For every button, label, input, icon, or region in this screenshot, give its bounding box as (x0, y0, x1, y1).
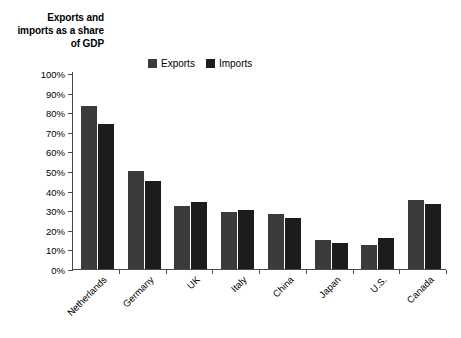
bar-exports-us (361, 245, 377, 270)
bar-exports-uk (174, 206, 190, 269)
bar-imports-japan (332, 243, 348, 269)
y-axis-tick (68, 270, 72, 271)
y-axis-line (72, 72, 73, 271)
bar-imports-us (378, 238, 394, 269)
bar-group (361, 73, 394, 269)
x-axis-label: China (270, 274, 295, 299)
x-axis-tick (166, 270, 167, 274)
bar-imports-china (285, 218, 301, 269)
y-axis-label: 20% (46, 225, 65, 236)
x-axis-label: U.S. (368, 274, 389, 295)
bar-exports-china (268, 214, 284, 269)
legend-item-imports: Imports (206, 58, 252, 69)
bar-group (268, 73, 301, 269)
bar-imports-canada (425, 204, 441, 269)
bar-group (174, 73, 207, 269)
y-axis-tick (68, 172, 72, 173)
x-axis-tick (446, 270, 447, 274)
x-axis-tick (306, 270, 307, 274)
bar-exports-japan (315, 240, 331, 269)
legend-swatch-exports (148, 59, 157, 68)
bar-exports-italy (221, 212, 237, 269)
y-axis-label: 10% (46, 245, 65, 256)
x-axis-tick (353, 270, 354, 274)
y-axis-label: 100% (41, 69, 65, 80)
legend-item-exports: Exports (148, 58, 195, 69)
x-axis-label: Germany (120, 274, 155, 309)
y-axis-label: 50% (46, 167, 65, 178)
x-axis-label: Japan (316, 274, 342, 300)
y-axis-tick (68, 133, 72, 134)
y-axis-label: 60% (46, 147, 65, 158)
y-axis-tick (68, 192, 72, 193)
y-axis-label: 80% (46, 108, 65, 119)
bar-imports-netherlands (98, 124, 114, 269)
y-axis-tick (68, 250, 72, 251)
y-axis-tick (68, 152, 72, 153)
chart-legend: Exports Imports (148, 58, 252, 69)
bar-group (221, 73, 254, 269)
bar-group (128, 73, 161, 269)
bar-group (81, 73, 114, 269)
y-axis-tick (68, 113, 72, 114)
x-axis-label: UK (185, 274, 202, 291)
bar-imports-uk (191, 202, 207, 269)
y-axis-label: 90% (46, 88, 65, 99)
y-axis-label: 30% (46, 206, 65, 217)
bar-exports-germany (128, 171, 144, 269)
x-axis-tick (119, 270, 120, 274)
bar-exports-netherlands (81, 106, 97, 269)
bar-group (315, 73, 348, 269)
legend-label-imports: Imports (219, 58, 252, 69)
legend-label-exports: Exports (161, 58, 195, 69)
y-axis-tick (68, 231, 72, 232)
x-axis-tick (259, 270, 260, 274)
chart-title: Exports and imports as a share of GDP (14, 11, 104, 50)
x-axis-tick (399, 270, 400, 274)
bar-chart: Exports and imports as a share of GDP Ex… (0, 0, 461, 338)
bar-exports-canada (408, 200, 424, 269)
y-axis-label: 70% (46, 127, 65, 138)
y-axis-tick (68, 74, 72, 75)
y-axis-tick (68, 211, 72, 212)
x-axis-label: Canada (405, 274, 436, 305)
plot-area: 100%90%80%70%60%50%40%30%20%10%0% Nether… (72, 73, 446, 270)
bar-imports-italy (238, 210, 254, 269)
x-axis-label: Italy (229, 274, 249, 294)
x-axis-tick (212, 270, 213, 274)
bar-group (408, 73, 441, 269)
bar-imports-germany (145, 181, 161, 269)
legend-swatch-imports (206, 59, 215, 68)
x-axis-label: Netherlands (65, 274, 109, 318)
y-axis-tick (68, 94, 72, 95)
y-axis-label: 40% (46, 186, 65, 197)
y-axis-label: 0% (51, 265, 65, 276)
